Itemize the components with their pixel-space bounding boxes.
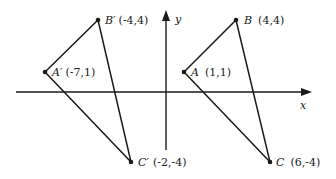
axes: x y — [16, 10, 312, 150]
point-b — [234, 18, 239, 23]
label-a-prime: A′(-7,1) — [51, 66, 95, 79]
label-b: B(4,4) — [243, 14, 284, 27]
point-a-prime — [43, 70, 48, 75]
y-axis-label: y — [174, 13, 182, 26]
label-c-prime: C′(-2,-4) — [138, 156, 186, 169]
x-axis-label: x — [300, 99, 307, 112]
point-a — [182, 70, 187, 75]
triangle-abc — [184, 20, 270, 162]
point-c-prime — [129, 160, 134, 165]
label-a: A(1,1) — [190, 66, 231, 79]
point-c — [268, 160, 273, 165]
y-axis-arrow-icon — [162, 10, 170, 21]
point-b-prime — [96, 18, 101, 23]
label-c: C(6,-4) — [276, 156, 320, 169]
coordinate-diagram: x y A′(-7,1) B′(-4,4) C′(-2,-4) A(1,1) B… — [0, 0, 336, 179]
label-b-prime: B′(-4,4) — [104, 14, 148, 27]
triangle-a-prime-b-prime-c-prime — [45, 20, 131, 162]
x-axis-arrow-icon — [301, 88, 312, 96]
